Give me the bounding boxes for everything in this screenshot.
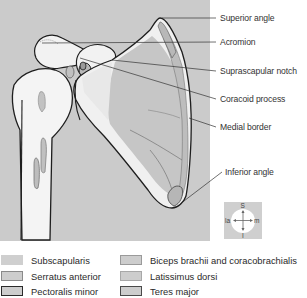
legend-item-subscapularis: Subscapularis	[1, 254, 90, 266]
label-suprascapular-notch: Suprascapular notch	[220, 66, 297, 76]
legend-swatch	[120, 286, 142, 296]
compass-inferior: I	[242, 232, 244, 239]
teres-major-attachment	[34, 158, 39, 189]
legend-item-latissimus-dorsi: Latissimus dorsi	[120, 270, 217, 282]
legend-swatch	[120, 255, 142, 265]
label-superior-angle: Superior angle	[220, 13, 275, 23]
label-coracoid-process: Coracoid process	[220, 94, 285, 104]
legend-swatch	[1, 286, 23, 296]
compass-lateral: la	[225, 217, 230, 224]
orientation-compass: S I la m	[224, 202, 262, 239]
compass-superior: S	[241, 202, 245, 209]
label-inferior-angle: Inferior angle	[225, 167, 274, 177]
latissimus-attachment	[41, 138, 46, 173]
label-acromion: Acromion	[220, 37, 256, 47]
legend-item-serratus-anterior: Serratus anterior	[1, 270, 101, 282]
coracobrachialis-attachment	[80, 62, 86, 70]
legend-item-teres-major: Teres major	[120, 285, 199, 297]
legend-swatch	[1, 255, 23, 265]
legend-item-pectoralis-minor: Pectoralis minor	[1, 285, 98, 297]
legend-swatch	[120, 271, 142, 281]
legend-swatch	[1, 271, 23, 281]
label-medial-border: Medial border	[220, 122, 271, 132]
scapula-anterior-diagram: Superior angle Acromion Suprascapular no…	[0, 0, 307, 298]
compass-medial: m	[254, 217, 259, 224]
legend-item-biceps-coracobrachialis: Biceps brachii and coracobrachialis	[120, 254, 297, 266]
